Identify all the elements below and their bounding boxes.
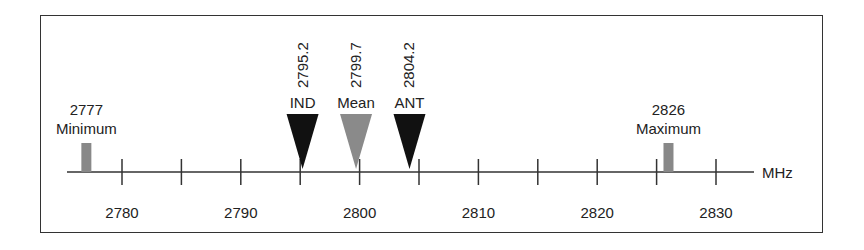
triangle-marker-ind <box>287 114 319 169</box>
marker-value: 2777 <box>70 101 103 118</box>
marker-name: IND <box>290 94 316 111</box>
unit-label: MHz <box>762 164 793 181</box>
tick-label: 2810 <box>462 204 495 221</box>
marker-value: 2795.2 <box>294 42 311 88</box>
tick-label: 2820 <box>581 204 614 221</box>
triangle-marker-ant <box>393 114 425 169</box>
marker-value: 2804.2 <box>400 42 417 88</box>
range-marker-minimum <box>81 143 91 172</box>
triangle-marker-mean <box>340 114 372 169</box>
marker-value: 2799.7 <box>347 42 364 88</box>
frequency-number-line: 278027902800281028202830MHz2777MinimumIN… <box>0 0 864 250</box>
marker-name: Mean <box>337 94 375 111</box>
marker-name: ANT <box>394 94 424 111</box>
tick-label: 2780 <box>105 204 138 221</box>
marker-name: Maximum <box>636 120 701 137</box>
tick-label: 2790 <box>224 204 257 221</box>
marker-name: Minimum <box>56 120 117 137</box>
tick-label: 2830 <box>699 204 732 221</box>
marker-value: 2826 <box>652 101 685 118</box>
range-marker-maximum <box>663 143 673 172</box>
tick-label: 2800 <box>343 204 376 221</box>
